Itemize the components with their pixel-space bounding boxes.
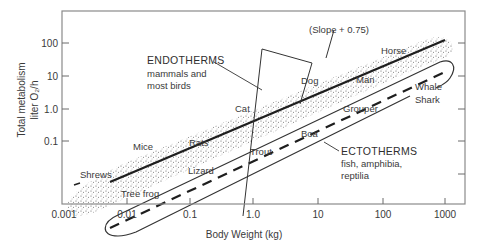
- right-axis-ticks: [458, 43, 465, 174]
- label-grouper: Grouper: [343, 103, 378, 114]
- label-tree-frog: Tree frog: [121, 188, 159, 199]
- label-shrews: Shrews: [80, 169, 112, 180]
- endotherms-leader: [214, 62, 262, 90]
- x-tick-0-001: 0.001: [51, 209, 76, 220]
- y-axis-title-line1: Total metabolism: [16, 62, 27, 137]
- ectotherms-sub1: fish, amphibia,: [341, 158, 402, 169]
- x-tick-0-01: 0.01: [117, 209, 137, 220]
- x-tick-10: 10: [312, 209, 324, 220]
- label-shark: Shark: [415, 94, 440, 105]
- label-trout: Trout: [250, 146, 272, 157]
- y-tick-100: 100: [41, 38, 58, 49]
- label-rats: Rats: [189, 137, 209, 148]
- ectotherms-sub2: reptilia: [341, 170, 370, 181]
- shrews-marker: [74, 183, 80, 185]
- y-axis: 100 10 1.0 0.1: [41, 38, 69, 147]
- x-tick-0-1: 0.1: [183, 209, 197, 220]
- metabolism-chart: 100 10 1.0 0.1 0.001 0.01 0.1 1.0 10 100…: [0, 0, 484, 247]
- slope-label: (Slope + 0.75): [309, 24, 369, 35]
- label-lizard: Lizard: [188, 165, 214, 176]
- ectotherms-title: ECTOTHERMS: [341, 145, 417, 157]
- label-dog: Dog: [301, 75, 318, 86]
- label-whale: Whale: [415, 81, 442, 92]
- y-tick-0-1: 0.1: [44, 136, 58, 147]
- endotherms-sub2: most birds: [147, 80, 191, 91]
- x-axis-title: Body Weight (kg): [206, 229, 283, 240]
- label-boa: Boa: [301, 128, 319, 139]
- x-tick-1000: 1000: [434, 209, 457, 220]
- y-tick-1: 1.0: [44, 104, 58, 115]
- label-mice: Mice: [133, 141, 153, 152]
- ectotherms-leader: [324, 142, 339, 151]
- label-horse: Horse: [381, 45, 406, 56]
- y-axis-title-line2: liter O₂/h: [29, 81, 40, 120]
- x-tick-100: 100: [375, 209, 392, 220]
- label-cat: Cat: [235, 103, 250, 114]
- endotherms-sub1: mammals and: [147, 68, 207, 79]
- x-tick-1: 1.0: [246, 209, 260, 220]
- y-tick-10: 10: [47, 71, 59, 82]
- label-man: Man: [356, 74, 374, 85]
- endotherms-title: ENDOTHERMS: [147, 54, 225, 66]
